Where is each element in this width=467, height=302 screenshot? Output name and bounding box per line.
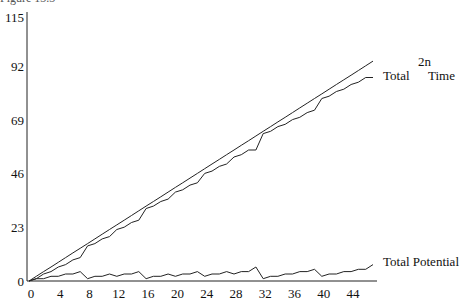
label-total: Total <box>383 68 410 83</box>
x-tick-label: 16 <box>142 286 156 301</box>
label-2n-superscript: 2n <box>418 54 432 69</box>
x-tick-label: 44 <box>347 286 361 301</box>
x-tick-label: 4 <box>57 286 64 301</box>
x-tick-label: 28 <box>229 286 242 301</box>
series-total-time <box>29 78 373 282</box>
x-tick-label: 20 <box>171 286 184 301</box>
label-total-potential: Total Potential <box>383 254 459 269</box>
x-tick-label: 0 <box>28 286 35 301</box>
series-total-2n <box>29 61 373 281</box>
y-tick-label: 69 <box>11 113 24 128</box>
x-tick-label: 40 <box>317 286 330 301</box>
x-tick-label: 24 <box>200 286 214 301</box>
y-tick-label: 92 <box>11 59 24 74</box>
x-tick-label: 32 <box>259 286 272 301</box>
series-total-potential <box>29 265 373 281</box>
x-axis-ticks: 048121620242832364044 <box>28 286 360 301</box>
x-tick-label: 36 <box>288 286 302 301</box>
line-chart: 023466992115 048121620242832364044 Total… <box>0 0 467 302</box>
y-tick-label: 23 <box>11 220 24 235</box>
x-tick-label: 8 <box>86 286 93 301</box>
x-tick-label: 12 <box>112 286 125 301</box>
y-tick-label: 46 <box>11 166 25 181</box>
y-tick-label: 0 <box>18 274 25 289</box>
y-axis-ticks: 023466992115 <box>5 10 25 289</box>
label-time: Time <box>428 68 455 83</box>
y-tick-label: 115 <box>5 10 24 25</box>
